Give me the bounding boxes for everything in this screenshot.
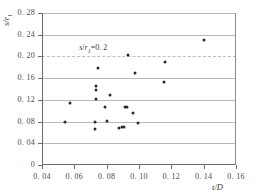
data-point — [105, 120, 108, 123]
reference-line — [42, 56, 236, 57]
data-point — [164, 60, 167, 63]
annotation-value: =0. 2 — [91, 43, 108, 52]
y-axis-line — [42, 13, 43, 165]
data-point — [94, 120, 97, 123]
x-tick-mark — [139, 165, 140, 169]
x-tick-mark — [107, 165, 108, 169]
x-tick-mark — [204, 165, 205, 169]
x-tick-label: 0. 04 — [33, 173, 51, 181]
x-tick-label: 0. 10 — [130, 173, 148, 181]
data-point — [94, 128, 97, 131]
data-point — [163, 80, 166, 83]
y-axis-label: s/r1 — [2, 14, 15, 26]
data-point — [94, 98, 97, 101]
data-point — [137, 121, 140, 124]
y-tick-label: 0 — [31, 161, 35, 169]
x-tick-mark — [74, 165, 75, 169]
x-tick-label: 0. 06 — [66, 173, 84, 181]
data-point — [109, 93, 112, 96]
y-tick-label: 0. 08 — [18, 118, 36, 126]
data-point — [94, 85, 97, 88]
data-point — [122, 125, 125, 128]
data-point — [68, 102, 71, 105]
x-tick-label: 0. 14 — [195, 173, 213, 181]
data-point — [94, 88, 97, 91]
plot-area — [42, 13, 236, 165]
plot-right-border — [235, 13, 236, 165]
data-point — [126, 54, 129, 57]
data-point — [64, 120, 67, 123]
y-tick-label: 0. 20 — [18, 52, 36, 60]
y-tick-label: 0. 04 — [18, 139, 36, 147]
x-tick-label: 0. 12 — [163, 173, 181, 181]
gridline-y — [42, 13, 236, 14]
gridline-y — [42, 78, 236, 79]
y-tick-label: 0. 12 — [18, 96, 36, 104]
x-tick-mark — [171, 165, 172, 169]
gridline-y — [42, 143, 236, 144]
x-tick-label: 0. 08 — [98, 173, 116, 181]
gridline-y — [42, 100, 236, 101]
data-point — [125, 106, 128, 109]
y-tick-label: 0. 16 — [18, 74, 36, 82]
y-tick-label: 0. 28 — [18, 9, 36, 17]
x-tick-mark — [42, 165, 43, 169]
scatter-chart-figure: s/r1 t/D 00. 040. 080. 120. 160. 200. 24… — [0, 0, 255, 196]
gridline-y — [42, 35, 236, 36]
data-point — [133, 71, 136, 74]
x-axis-label: t/D — [212, 183, 223, 192]
reference-line-annotation: s/r1=0. 2 — [79, 43, 107, 56]
data-point — [103, 105, 106, 108]
data-point — [96, 66, 99, 69]
x-axis-line — [42, 164, 236, 165]
data-point — [203, 38, 206, 41]
x-tick-mark — [236, 165, 237, 169]
x-tick-label: 0. 16 — [227, 173, 245, 181]
data-point — [131, 112, 134, 115]
y-tick-label: 0. 24 — [18, 31, 36, 39]
